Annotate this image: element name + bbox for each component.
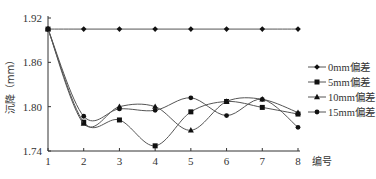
y-tick-label: 1.92 bbox=[23, 12, 42, 24]
x-tick-label: 5 bbox=[188, 155, 194, 167]
x-tick-label: 2 bbox=[81, 155, 87, 167]
legend-item: 5mm偏差 bbox=[308, 76, 370, 88]
data-point bbox=[188, 26, 194, 32]
data-point bbox=[260, 97, 265, 102]
data-point bbox=[224, 26, 230, 32]
legend-label: 10mm偏差 bbox=[328, 91, 375, 103]
data-point bbox=[117, 106, 122, 111]
axes bbox=[48, 16, 300, 151]
legend-marker bbox=[315, 80, 320, 85]
x-tick-label: 1 bbox=[45, 155, 51, 167]
legend-marker bbox=[314, 64, 320, 70]
data-point bbox=[296, 125, 301, 130]
x-axis-title: 编号 bbox=[312, 155, 332, 167]
data-point bbox=[260, 105, 265, 110]
legend-label: 5mm偏差 bbox=[328, 76, 370, 88]
legend-marker bbox=[315, 110, 320, 115]
data-point bbox=[152, 26, 158, 32]
series-line bbox=[48, 29, 298, 127]
series-layer bbox=[45, 26, 301, 148]
data-point bbox=[153, 143, 158, 148]
data-point bbox=[81, 114, 86, 119]
legend-item: 10mm偏差 bbox=[308, 91, 375, 103]
x-tick-label: 4 bbox=[152, 155, 158, 167]
series-line bbox=[48, 29, 298, 146]
data-point bbox=[153, 108, 158, 113]
x-tick-label: 6 bbox=[224, 155, 230, 167]
data-point bbox=[81, 26, 87, 32]
legend-item: 15mm偏差 bbox=[308, 106, 375, 118]
data-point bbox=[224, 113, 229, 118]
y-tick-label: 1.80 bbox=[23, 101, 43, 113]
data-point bbox=[295, 26, 301, 32]
legend-label: 15mm偏差 bbox=[328, 106, 375, 118]
x-tick-label: 7 bbox=[260, 155, 266, 167]
x-tick-label: 8 bbox=[295, 155, 301, 167]
series-15mm偏差 bbox=[46, 27, 301, 130]
y-tick-label: 1.74 bbox=[23, 145, 43, 157]
data-point bbox=[188, 95, 193, 100]
legend-item: 0mm偏差 bbox=[308, 61, 370, 73]
data-point bbox=[188, 109, 193, 114]
x-tick-label: 3 bbox=[117, 155, 123, 167]
series-5mm偏差 bbox=[46, 27, 301, 149]
data-point bbox=[259, 26, 265, 32]
y-axis-title: 沉降（mm） bbox=[4, 55, 16, 114]
data-point bbox=[46, 27, 51, 32]
data-point bbox=[117, 117, 122, 122]
series-0mm偏差 bbox=[45, 26, 301, 32]
y-ticks: 1.741.801.861.92 bbox=[23, 12, 51, 157]
legend-label: 0mm偏差 bbox=[328, 61, 370, 73]
line-chart: 1.741.801.861.92 12345678 沉降（mm） 编号 0mm偏… bbox=[0, 0, 376, 179]
data-point bbox=[117, 26, 123, 32]
legend: 0mm偏差5mm偏差10mm偏差15mm偏差 bbox=[308, 61, 375, 118]
y-tick-label: 1.86 bbox=[23, 56, 43, 68]
